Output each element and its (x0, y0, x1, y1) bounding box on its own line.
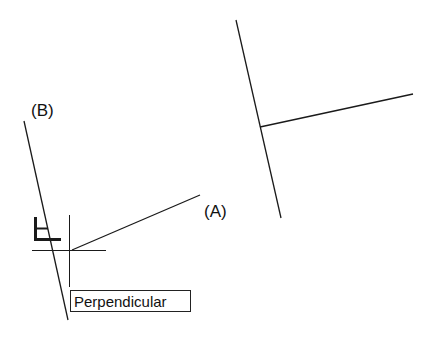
crosshair-cursor-icon (32, 215, 106, 287)
drawing-canvas[interactable] (0, 0, 433, 340)
result-line-b[interactable] (236, 20, 281, 218)
line-b[interactable] (24, 121, 68, 320)
label-line-a: (A) (204, 203, 227, 220)
snap-tooltip: Perpendicular (70, 290, 191, 312)
line-a[interactable] (72, 195, 200, 250)
perpendicular-snap-icon (34, 217, 61, 241)
result-line-a[interactable] (260, 94, 413, 127)
label-line-b: (B) (31, 102, 54, 119)
